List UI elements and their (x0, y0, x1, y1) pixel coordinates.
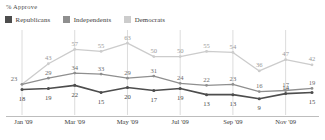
data-label: 19 (309, 79, 316, 86)
x-tick-label: Mar '09 (65, 118, 85, 125)
data-point (73, 48, 76, 51)
data-point (311, 63, 314, 66)
data-label: 18 (19, 95, 26, 102)
data-label: 13 (230, 100, 237, 107)
legend-label-independents: Independents (74, 16, 111, 23)
data-label: 34 (71, 64, 78, 71)
data-point (152, 89, 155, 92)
data-point (232, 83, 235, 86)
data-point (284, 92, 287, 95)
data-point (311, 87, 314, 90)
x-tick-label: May '09 (117, 118, 139, 125)
data-point (100, 73, 103, 76)
data-label: 16 (256, 82, 263, 89)
data-label: 9 (258, 104, 261, 111)
data-point (100, 91, 103, 94)
data-label: 42 (309, 55, 316, 62)
x-tick-label: Jul '09 (172, 118, 189, 125)
data-label: 43 (45, 54, 52, 61)
data-label: 55 (98, 42, 105, 49)
data-label: 22 (203, 76, 210, 83)
series-line-republicans (22, 85, 312, 98)
x-axis: Jan '09Mar '09May '09Jul '09Sep '09Nov '… (0, 116, 325, 140)
data-point (100, 50, 103, 53)
data-point (47, 77, 50, 80)
data-label: 31 (151, 67, 158, 74)
data-point (126, 86, 129, 89)
data-label: 20 (124, 93, 131, 100)
legend-item-republicans[interactable]: Republicans (5, 16, 50, 23)
legend-swatch-republicans (5, 16, 12, 23)
data-label: 19 (177, 94, 184, 101)
data-point (258, 90, 261, 93)
data-label: 50 (177, 47, 184, 54)
data-label: 15 (309, 98, 316, 105)
data-label: 13 (203, 100, 210, 107)
data-point (258, 97, 261, 100)
chart-title: % Approve (6, 3, 37, 10)
data-label: 22 (71, 91, 78, 98)
data-point (205, 84, 208, 87)
data-point (258, 70, 261, 73)
x-tick-label: Nov '09 (275, 118, 296, 125)
chart-legend: Republicans Independents Democrats (5, 16, 178, 23)
data-point (126, 42, 129, 45)
data-point (21, 83, 24, 86)
data-point (179, 82, 182, 85)
data-point (179, 55, 182, 58)
data-label: 15 (98, 98, 105, 105)
data-point (152, 55, 155, 58)
data-label: 17 (151, 96, 158, 103)
data-point (152, 75, 155, 78)
data-point (21, 88, 24, 91)
data-point (205, 50, 208, 53)
x-tick-label: Jan '09 (14, 118, 32, 125)
data-point (205, 93, 208, 96)
data-label: 19 (45, 94, 52, 101)
data-point (231, 93, 234, 96)
data-label: 33 (98, 65, 105, 72)
legend-label-republicans: Republicans (16, 16, 51, 23)
data-label: 29 (45, 69, 52, 76)
data-point (73, 72, 76, 75)
data-point (311, 91, 314, 94)
data-point (73, 84, 76, 87)
approval-line-chart: % Approve Republicans Independents Democ… (0, 0, 325, 140)
data-point (47, 87, 50, 90)
data-label: 17 (282, 81, 289, 88)
data-label: 23 (230, 75, 237, 82)
data-label: 47 (282, 50, 289, 57)
data-label: 54 (230, 43, 237, 50)
legend-swatch-democrats (124, 16, 131, 23)
data-label: 50 (151, 47, 158, 54)
legend-swatch-independents (63, 16, 70, 23)
legend-item-democrats[interactable]: Democrats (124, 16, 165, 23)
data-point (179, 87, 182, 90)
legend-item-independents[interactable]: Independents (63, 16, 111, 23)
legend-label-democrats: Democrats (135, 16, 165, 23)
data-label: 24 (177, 74, 184, 81)
data-point (47, 62, 50, 65)
data-label: 57 (71, 40, 78, 47)
data-label: 29 (124, 69, 131, 76)
data-label: 36 (256, 61, 263, 68)
data-label: 55 (203, 42, 210, 49)
data-label: 23 (11, 75, 18, 82)
data-label: 63 (124, 34, 131, 41)
data-point (284, 58, 287, 61)
x-axis-line (6, 116, 319, 117)
series-line-democrats (22, 43, 312, 84)
x-tick-label: Sep '09 (223, 118, 242, 125)
data-point (232, 51, 235, 54)
data-point (126, 77, 129, 80)
